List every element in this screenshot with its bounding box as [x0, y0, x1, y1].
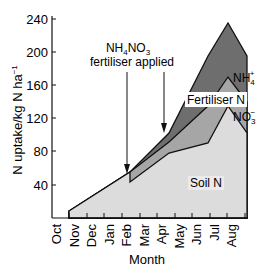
- ytick-40: 40: [34, 178, 48, 193]
- arrow-feb: [124, 72, 130, 174]
- ytick-80: 80: [34, 144, 48, 159]
- fertiliser-annotation-line2: fertiliser applied: [90, 55, 174, 69]
- ytick-120: 120: [26, 111, 48, 126]
- arrow-apr: [161, 72, 167, 133]
- xtick-dec: Dec: [84, 224, 99, 248]
- ytick-200: 200: [26, 45, 48, 60]
- y-axis-label: N uptake/kg N ha−1: [10, 65, 25, 175]
- xtick-feb: Feb: [119, 224, 134, 246]
- fertiliser-n-label: Fertiliser N: [187, 93, 245, 107]
- ytick-240: 240: [26, 12, 48, 27]
- chart: 240 200 160 120 80 40 Oct Nov Dec Jan Fe…: [0, 0, 261, 270]
- xtick-mar: Mar: [137, 223, 152, 246]
- no3-label: NO3−: [233, 108, 256, 126]
- x-tick-labels: Oct Nov Dec Jan Feb Mar Apr May Jun Jul …: [49, 223, 239, 248]
- xtick-jul: Jul: [207, 224, 222, 241]
- soil-n-label: Soil N: [190, 176, 222, 190]
- xtick-jun: Jun: [189, 224, 204, 245]
- soil-n-area: [69, 106, 247, 218]
- x-axis-label: Month: [129, 252, 165, 267]
- xtick-oct: Oct: [49, 224, 64, 245]
- xtick-aug: Aug: [224, 224, 239, 247]
- xtick-apr: Apr: [154, 223, 169, 244]
- y-tick-labels: 240 200 160 120 80 40: [26, 12, 48, 193]
- xtick-nov: Nov: [67, 224, 82, 248]
- nh4-label: NH4+: [233, 69, 255, 87]
- xtick-may: May: [172, 224, 187, 249]
- ytick-160: 160: [26, 78, 48, 93]
- xtick-jan: Jan: [102, 224, 117, 245]
